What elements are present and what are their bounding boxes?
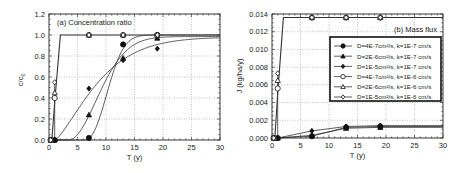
circle-marker-icon: [341, 44, 345, 48]
panel-mass-flux: 0510152025300.0000.0020.0040.0060.0080.0…: [235, 10, 447, 160]
triangle-marker-icon: [52, 90, 57, 95]
x-tick-label: 0: [47, 143, 51, 152]
figure: 0510152025300.00.20.40.60.81.01.2T (y)(a…: [0, 0, 463, 173]
y-tick-label: 0.008: [249, 63, 268, 72]
x-axis-label: T (y): [350, 151, 366, 160]
y-tick-label: 0.6: [35, 73, 45, 82]
x-tick-label: 20: [382, 141, 390, 150]
chart-figure: 0510152025300.00.20.40.60.81.01.2T (y)(a…: [0, 0, 463, 173]
y-tick-label: 0.012: [249, 27, 268, 36]
y-tick-label: 0.004: [249, 98, 268, 107]
curve-k1e-7: [274, 127, 443, 138]
y-tick-label: 0.000: [249, 134, 268, 143]
x-tick-label: 5: [298, 141, 302, 150]
y-tick-label: 0.006: [249, 80, 268, 89]
diamond-marker-icon: [87, 86, 91, 91]
panel-a-title: (a) Concentration ratio: [57, 18, 132, 27]
diamond-marker-icon: [310, 128, 314, 133]
x-tick-label: 20: [159, 143, 167, 152]
circle-marker-icon: [275, 86, 280, 91]
x-tick-label: 25: [187, 143, 195, 152]
x-tick-label: 25: [410, 141, 418, 150]
grid: [49, 14, 220, 140]
panel-concentration-ratio: 0510152025300.00.20.40.60.81.01.2T (y)(a…: [16, 10, 224, 162]
x-tick-label: 30: [439, 141, 447, 150]
y-axis-label: J (kg/ha/y): [235, 58, 244, 94]
y-tick-label: 0.4: [35, 94, 45, 103]
legend-label: D=1E-5cm²/s, k=1E-6 cm/s: [357, 93, 431, 100]
y-tick-label: 1.2: [35, 10, 45, 19]
y-tick-label: 1.0: [35, 31, 45, 40]
x-tick-label: 30: [216, 143, 224, 152]
triangle-marker-icon: [275, 78, 280, 83]
y-tick-label: 0.2: [35, 115, 45, 124]
x-tick-label: 15: [130, 143, 138, 152]
y-axis-label: c/c0: [16, 74, 26, 87]
legend-label: D=1E-5cm²/s, k=1E-7 cm/s: [357, 63, 431, 70]
circle-marker-icon: [86, 135, 91, 140]
x-tick-label: 10: [102, 143, 110, 152]
x-axis-label: T (y): [127, 153, 143, 162]
x-tick-label: 15: [353, 141, 361, 150]
legend-label: D=4E-7cm²/s, k=1E-6 cm/s: [357, 73, 431, 80]
y-tick-label: 0.8: [35, 52, 45, 61]
legend: D=4E-7cm²/s, k=1E-7 cm/sD=2E-6cm²/s, k=1…: [330, 37, 441, 101]
x-tick-label: 0: [270, 141, 274, 150]
legend-label: D=2E-6cm²/s, k=1E-7 cm/s: [357, 53, 431, 60]
circle-marker-icon: [52, 95, 57, 100]
x-tick-label: 5: [75, 143, 79, 152]
y-tick-label: 0.0: [35, 136, 45, 145]
diamond-marker-icon: [155, 46, 159, 51]
x-tick-label: 10: [325, 141, 333, 150]
triangle-marker-icon: [86, 112, 91, 117]
panel-b-title: (b) Mass flux: [394, 25, 437, 34]
y-tick-label: 0.002: [249, 116, 268, 125]
y-tick-label: 0.014: [249, 10, 268, 19]
legend-label: D=2E-6cm²/s, k=1E-6 cm/s: [357, 83, 431, 90]
y-tick-label: 0.010: [249, 45, 268, 54]
circle-marker-icon: [341, 74, 345, 78]
circle-marker-icon: [121, 42, 126, 47]
legend-label: D=4E-7cm²/s, k=1E-7 cm/s: [357, 42, 431, 49]
